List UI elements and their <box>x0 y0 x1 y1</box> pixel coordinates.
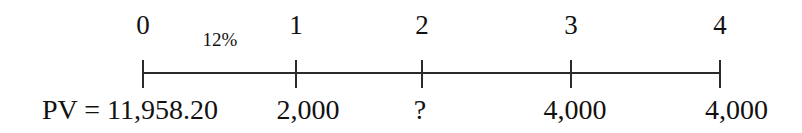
cash-flow-label-period-2: ? <box>340 96 500 124</box>
timeline-tick-2 <box>421 60 423 88</box>
period-label-2: 2 <box>382 12 462 39</box>
timeline-tick-1 <box>295 60 297 88</box>
period-label-3: 3 <box>531 12 611 39</box>
timeline-tick-4 <box>719 60 721 88</box>
cash-flow-label-period-4: 4,000 <box>528 96 768 124</box>
period-label-4: 4 <box>680 12 760 39</box>
cash-flow-timeline-figure: 0 1 2 3 4 12% PV = 11,958.20 2,000 ? 4,0… <box>0 0 802 133</box>
timeline-tick-3 <box>570 60 572 88</box>
timeline-tick-0 <box>142 60 144 88</box>
timeline-axis-line <box>143 72 720 74</box>
interest-rate-label: 12% <box>170 30 270 49</box>
